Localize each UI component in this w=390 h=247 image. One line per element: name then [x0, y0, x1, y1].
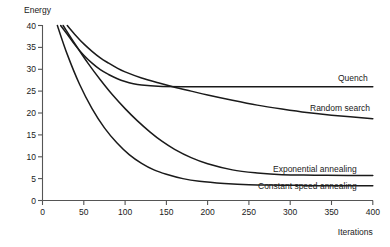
y-axis-title: Energy	[24, 5, 52, 15]
x-tick-label-100: 100	[118, 207, 132, 217]
energy-vs-iterations-chart: Energy 40 35 30 25 20 15 10 5 0	[0, 0, 390, 247]
y-tick-label-25: 25	[27, 86, 37, 96]
x-tick-label-200: 200	[201, 207, 215, 217]
series-line-quench	[61, 26, 373, 87]
y-tick-label-15: 15	[27, 130, 37, 140]
x-tick-label-350: 350	[324, 207, 338, 217]
x-axis-ticks	[43, 201, 373, 206]
y-tick-label-30: 30	[27, 64, 37, 74]
series-line-exponential-annealing	[63, 26, 373, 176]
series-label-exponential-annealing: Exponential annealing	[273, 164, 357, 174]
y-tick-label-35: 35	[27, 42, 37, 52]
x-tick-label-250: 250	[242, 207, 256, 217]
x-axis-title: Iterations	[338, 227, 373, 237]
series-label-constant-speed-annealing: Constant speed annealing	[258, 181, 357, 191]
x-tick-label-400: 400	[366, 207, 380, 217]
y-tick-label-20: 20	[27, 108, 37, 118]
x-tick-label-0: 0	[40, 207, 45, 217]
x-axis-tick-labels: 0 50 100 150 200 250 300 350 400	[40, 207, 380, 217]
y-tick-label-5: 5	[31, 174, 36, 184]
x-tick-label-50: 50	[79, 207, 89, 217]
y-axis-ticks	[38, 26, 43, 201]
x-tick-label-150: 150	[159, 207, 173, 217]
chart-svg: Energy 40 35 30 25 20 15 10 5 0	[0, 0, 390, 247]
y-tick-label-10: 10	[27, 152, 37, 162]
y-tick-label-0: 0	[31, 196, 36, 206]
x-tick-label-300: 300	[283, 207, 297, 217]
series-label-random-search: Random search	[310, 103, 370, 113]
y-axis-tick-labels: 40 35 30 25 20 15 10 5 0	[27, 21, 37, 206]
series-label-quench: Quench	[338, 73, 368, 83]
y-tick-label-40: 40	[27, 21, 37, 31]
